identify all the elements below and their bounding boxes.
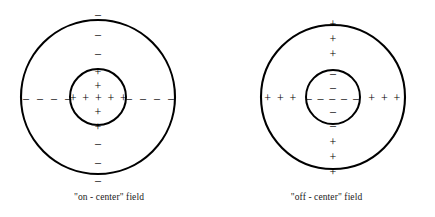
on-center-surround-dash-left-2: – (37, 93, 43, 104)
on-center-surround-dash-right-1: – (126, 93, 132, 104)
on-center-plus-above-1: + (95, 67, 102, 78)
off-center-surround-plus-above-3: + (330, 49, 337, 60)
off-center-minus-below-2: – (330, 120, 336, 131)
panel-on-center: – – – + + + + + + + + + – – – – – – – – … (0, 0, 218, 217)
on-center-surround-minus-above-2: – (95, 29, 101, 40)
off-center-surround-plus-above-1: + (330, 19, 337, 30)
off-center-minus-below-1: – (330, 106, 336, 117)
on-center-surround-minus-above-3: – (95, 48, 101, 59)
off-center-minus-above-1: – (330, 68, 336, 79)
on-center-surround-dash-left-1: – (23, 93, 29, 104)
off-center-surround-plus-above-2: + (330, 34, 337, 45)
panel-off-center: + + + – – – – – – – – – + + + + + + + + … (218, 0, 435, 217)
on-center-plus-below-2: + (95, 122, 102, 133)
off-center-surround-plus-below-3: + (330, 167, 337, 178)
off-center-surround-plus-below-1: + (330, 137, 337, 148)
on-center-surround-dash-right-4: – (168, 93, 174, 104)
on-center-surround-minus-below-2: – (95, 157, 101, 168)
on-center-surround-dash-right-2: – (140, 93, 146, 104)
on-center-surround-minus-above-1: – (95, 9, 101, 20)
off-center-minus-row: – – – – – (306, 93, 361, 104)
on-center-caption: "on - center" field (0, 191, 218, 203)
on-center-surround-minus-below-1: – (95, 138, 101, 149)
on-center-plus-row: + + + + + (70, 93, 128, 104)
on-center-surround-minus-below-3: – (95, 175, 101, 186)
diagram-canvas: – – – + + + + + + + + + – – – – – – – – … (0, 0, 435, 217)
on-center-surround-dash-left-3: – (51, 93, 57, 104)
on-center-field-graphic: – – – + + + + + + + + + – – – – – – – – … (0, 0, 218, 185)
off-center-surround-plus-row-left: + + + (264, 93, 297, 104)
on-center-surround-dash-right-3: – (154, 93, 160, 104)
off-center-field-graphic: + + + – – – – – – – – – + + + + + + + + … (218, 0, 435, 185)
on-center-surround-dash-left-4: – (65, 93, 71, 104)
on-center-plus-below-1: + (95, 107, 102, 118)
off-center-surround-plus-below-2: + (330, 152, 337, 163)
off-center-caption: "off - center" field (218, 191, 435, 203)
off-center-surround-plus-row-right: + + + (368, 93, 401, 104)
